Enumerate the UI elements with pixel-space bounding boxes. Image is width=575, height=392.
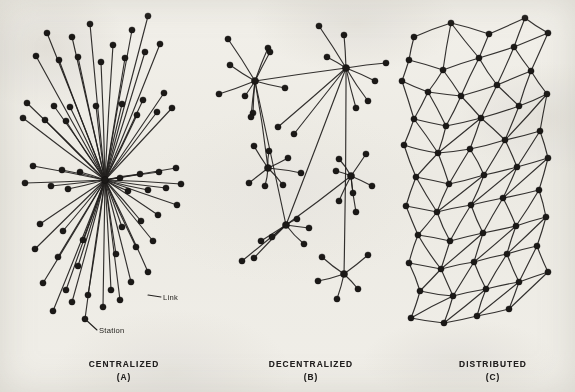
network-station-node — [22, 180, 28, 186]
network-link — [479, 47, 514, 58]
network-station-node — [545, 155, 551, 161]
network-link — [441, 269, 453, 296]
network-diagram-svg: LinkStation — [0, 0, 575, 392]
network-station-node — [513, 223, 519, 229]
network-station-node — [137, 171, 143, 177]
network-link — [519, 94, 547, 106]
annotation-label-station: Station — [99, 326, 124, 335]
network-station-node — [134, 112, 140, 118]
network-link — [470, 149, 484, 175]
caption-distributed-letter: (C) — [428, 371, 558, 384]
network-station-node — [93, 103, 99, 109]
network-station-node — [266, 148, 272, 154]
network-station-node — [133, 244, 139, 250]
caption-centralized-letter: (A) — [54, 371, 194, 384]
network-link — [255, 68, 346, 81]
network-station-node — [468, 202, 474, 208]
network-station-node — [443, 123, 449, 129]
network-link — [45, 120, 105, 180]
caption-distributed: DISTRIBUTED (C) — [428, 358, 558, 383]
network-link — [483, 226, 516, 233]
network-hub-node — [342, 64, 349, 71]
network-station-node — [383, 60, 389, 66]
network-station-node — [516, 103, 522, 109]
network-station-node — [77, 169, 83, 175]
network-station-node — [506, 306, 512, 312]
network-station-node — [494, 82, 500, 88]
network-link — [420, 291, 453, 296]
network-link — [420, 269, 441, 291]
network-station-node — [63, 287, 69, 293]
network-link — [337, 274, 344, 299]
network-link — [105, 180, 111, 290]
network-station-node — [425, 89, 431, 95]
network-link — [344, 255, 368, 274]
network-station-node — [438, 266, 444, 272]
network-link — [414, 92, 428, 119]
network-link — [539, 158, 548, 190]
network-link — [294, 68, 346, 134]
network-station-node — [476, 55, 482, 61]
network-station-node — [406, 57, 412, 63]
network-link — [409, 235, 418, 263]
network-link — [346, 63, 386, 68]
network-link — [219, 81, 255, 94]
network-station-node — [32, 246, 38, 252]
network-link — [406, 177, 416, 206]
network-station-node — [478, 115, 484, 121]
network-link — [346, 68, 356, 108]
network-link — [402, 60, 409, 81]
network-station-node — [336, 198, 342, 204]
network-station-node — [142, 49, 148, 55]
network-station-node — [500, 195, 506, 201]
network-hub-node — [282, 221, 289, 228]
network-station-node — [169, 105, 175, 111]
network-station-node — [59, 167, 65, 173]
network-link — [450, 205, 471, 241]
network-station-node — [145, 187, 151, 193]
network-hub-node — [347, 172, 354, 179]
network-link — [437, 212, 450, 241]
network-station-node — [504, 251, 510, 257]
network-link — [503, 198, 516, 226]
network-station-node — [138, 218, 144, 224]
network-link — [409, 263, 441, 269]
network-station-node — [20, 115, 26, 121]
network-station-node — [471, 259, 477, 265]
network-link — [514, 47, 531, 71]
network-link — [497, 85, 519, 106]
network-link — [479, 58, 497, 85]
caption-decentralized-letter: (B) — [236, 371, 386, 384]
caption-centralized-name: CENTRALIZED — [89, 359, 160, 369]
network-link — [479, 34, 489, 58]
network-link — [461, 96, 481, 118]
network-station-node — [125, 188, 131, 194]
network-station-node — [315, 278, 321, 284]
network-link — [230, 65, 255, 81]
network-link — [404, 119, 414, 145]
network-station-node — [355, 286, 361, 292]
network-station-node — [30, 163, 36, 169]
network-link — [406, 206, 418, 235]
network-station-node — [161, 90, 167, 96]
network-station-node — [522, 15, 528, 21]
network-station-node — [42, 117, 48, 123]
network-link — [228, 39, 255, 81]
network-link — [409, 263, 420, 291]
network-station-node — [154, 109, 160, 115]
network-link — [322, 257, 344, 274]
network-link — [402, 81, 414, 119]
panel-centralized — [20, 13, 184, 322]
network-station-node — [75, 263, 81, 269]
network-station-node — [528, 68, 534, 74]
network-station-node — [280, 182, 286, 188]
network-station-node — [40, 280, 46, 286]
network-link — [443, 70, 461, 96]
network-station-node — [350, 190, 356, 196]
network-link — [483, 198, 503, 233]
network-station-node — [60, 228, 66, 234]
network-station-node — [122, 55, 128, 61]
network-link — [507, 254, 519, 282]
network-link — [540, 94, 547, 131]
figure-canvas: LinkStation CENTRALIZED (A) DECENTRALIZE… — [0, 0, 575, 392]
